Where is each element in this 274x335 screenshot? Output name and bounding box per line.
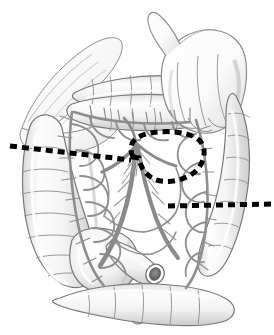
anatomy-figure (0, 0, 274, 335)
anatomy-illustration-svg (0, 0, 274, 335)
distal-resection-line (168, 204, 272, 206)
